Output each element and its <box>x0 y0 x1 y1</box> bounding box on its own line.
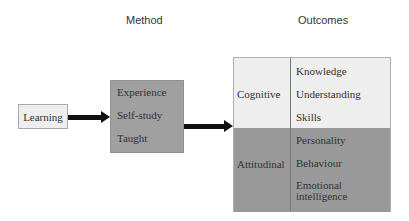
learning-label: Learning <box>23 111 63 123</box>
outcome-item: Personality <box>296 135 346 146</box>
method-item: Self-study <box>117 110 183 133</box>
method-item: Experience <box>117 87 183 110</box>
outcome-item: Knowledge <box>296 66 347 77</box>
outcome-item: Emotional intelligence <box>296 180 366 202</box>
method-box: Experience Self-study Taught <box>110 80 184 153</box>
cognitive-row: Cognitive Knowledge Understanding Skills <box>234 58 390 128</box>
outcome-item: Understanding <box>296 89 361 100</box>
arrow-method-to-outcomes <box>184 124 225 129</box>
method-item: Taught <box>117 133 183 156</box>
cognitive-label: Cognitive <box>237 88 280 100</box>
outcome-item: Skills <box>296 112 321 123</box>
outcomes-table: Cognitive Knowledge Understanding Skills… <box>233 57 391 212</box>
attitudinal-label: Attitudinal <box>237 158 285 170</box>
method-header: Method <box>126 14 163 26</box>
column-divider <box>290 58 291 211</box>
outcome-item: Behaviour <box>296 158 342 169</box>
learning-box: Learning <box>18 104 68 129</box>
attitudinal-row: Attitudinal Personality Behaviour Emotio… <box>234 128 390 212</box>
outcomes-header: Outcomes <box>298 14 348 26</box>
arrow-learning-to-method <box>68 115 102 120</box>
